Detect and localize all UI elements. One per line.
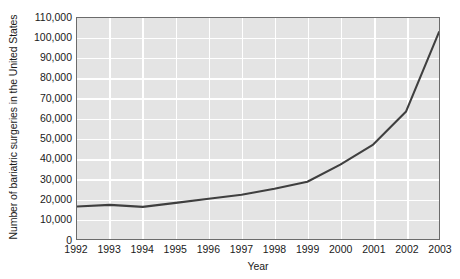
y-axis-tick-label: 10,000 xyxy=(16,214,72,225)
y-axis-tick-label: 20,000 xyxy=(16,194,72,205)
y-axis-tick-label: 40,000 xyxy=(16,153,72,164)
y-axis-tick-label: 70,000 xyxy=(16,93,72,104)
x-axis-title: Year xyxy=(76,260,440,272)
y-axis-tick-label: 30,000 xyxy=(16,174,72,185)
y-axis-tick-labels: 010,00020,00030,00040,00050,00060,00070,… xyxy=(14,0,72,279)
plot-area xyxy=(76,17,440,240)
y-axis-tick-label: 50,000 xyxy=(16,133,72,144)
y-axis-tick-label: 90,000 xyxy=(16,52,72,63)
y-axis-tick-label: 60,000 xyxy=(16,113,72,124)
y-axis-tick-label: 100,000 xyxy=(16,32,72,43)
x-axis-tick-labels: 1992199319941995199619971998199920002001… xyxy=(0,243,460,257)
y-axis-tick-label: 110,000 xyxy=(16,12,72,23)
chart-figure: Number of bariatric surgeries in the Uni… xyxy=(0,0,460,279)
data-series-line xyxy=(77,18,439,239)
x-axis-tick-label: 2003 xyxy=(420,243,460,255)
y-axis-tick-label: 80,000 xyxy=(16,72,72,83)
